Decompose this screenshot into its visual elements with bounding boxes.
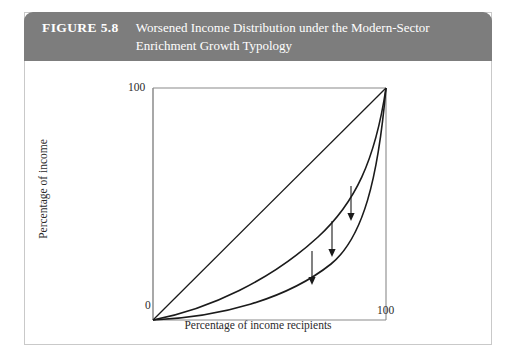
x-axis-title: Percentage of income recipients bbox=[25, 319, 491, 331]
figure-title: Worsened Income Distribution under the M… bbox=[119, 19, 468, 55]
figure-container: FIGURE 5.8 Worsened Income Distribution … bbox=[24, 12, 492, 345]
shift-arrows bbox=[308, 186, 354, 285]
y-axis-title: Percentage of income bbox=[37, 109, 49, 269]
lorenz-curve-chart bbox=[25, 61, 491, 344]
plot-area: 100 0 100 Percentage of income Percentag… bbox=[25, 61, 491, 344]
figure-header-bar: FIGURE 5.8 Worsened Income Distribution … bbox=[24, 12, 492, 61]
shift-arrow-3 bbox=[347, 186, 354, 221]
x-axis-tick-0: 0 bbox=[145, 299, 151, 311]
figure-number-label: FIGURE 5.8 bbox=[24, 19, 119, 37]
y-axis-tick-100: 100 bbox=[128, 81, 145, 93]
shift-arrow-1 bbox=[308, 251, 315, 285]
x-axis-tick-100: 100 bbox=[377, 304, 394, 316]
